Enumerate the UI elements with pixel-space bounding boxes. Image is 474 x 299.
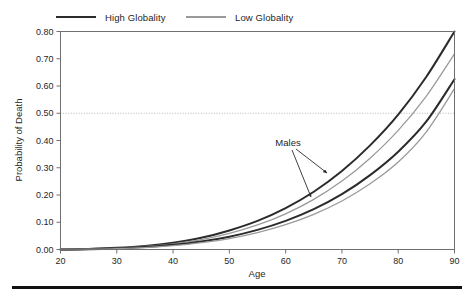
axis-frame: [61, 32, 455, 250]
series-line-0: [61, 32, 455, 250]
x-tick-label: 50: [224, 256, 234, 266]
x-axis-ticks: 2030405060708090: [55, 250, 459, 266]
x-tick-label: 60: [281, 256, 291, 266]
x-tick-label: 90: [449, 256, 459, 266]
y-axis-title: Probability of Death: [13, 99, 24, 182]
y-tick-label: 0.20: [36, 190, 54, 200]
annotation-arrow-0: [296, 149, 327, 173]
plot-frame-rect: [61, 32, 455, 250]
x-tick-label: 80: [393, 256, 403, 266]
y-tick-label: 0.30: [36, 163, 54, 173]
y-tick-label: 0.10: [36, 217, 54, 227]
y-tick-label: 0.70: [36, 54, 54, 64]
data-series-group: [61, 32, 455, 250]
males-annotation-label: Males: [275, 137, 301, 148]
x-tick-label: 70: [337, 256, 347, 266]
y-tick-label: 0.80: [36, 27, 54, 37]
y-axis-ticks: 0.000.100.200.300.400.500.600.700.80: [36, 27, 61, 255]
x-tick-label: 30: [112, 256, 122, 266]
x-axis-title: Age: [249, 268, 266, 279]
y-tick-label: 0.60: [36, 81, 54, 91]
x-tick-label: 20: [55, 256, 65, 266]
x-tick-label: 40: [168, 256, 178, 266]
y-tick-label: 0.40: [36, 136, 54, 146]
bottom-divider-rule: [12, 286, 462, 289]
plot-area: 0.000.100.200.300.400.500.600.700.80 203…: [0, 0, 474, 299]
chart-svg: 0.000.100.200.300.400.500.600.700.80 203…: [0, 0, 474, 299]
figure-root: High Globality Low Globality 0.000.100.2…: [0, 0, 474, 299]
y-tick-label: 0.00: [36, 245, 54, 255]
annotation-arrow-1: [292, 150, 311, 197]
males-annotation-arrows: [292, 149, 327, 197]
y-tick-label: 0.50: [36, 108, 54, 118]
